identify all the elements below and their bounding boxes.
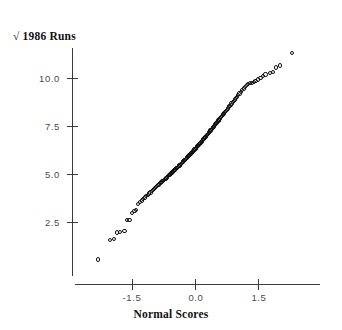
data-point [122,229,126,233]
data-point [118,230,122,234]
data-point [127,218,131,222]
data-point [134,208,138,212]
data-point [290,51,294,55]
data-point [278,63,282,67]
scatter-points-layer [0,0,342,330]
data-point [263,72,267,76]
qq-plot-figure: √ 1986 Runs 10.0 7.5 5.0 2.5 -1.5 0.0 1.… [0,0,342,330]
data-point [96,257,100,261]
data-point [271,70,275,74]
x-axis-title: Normal Scores [0,308,342,320]
data-point [112,237,116,241]
